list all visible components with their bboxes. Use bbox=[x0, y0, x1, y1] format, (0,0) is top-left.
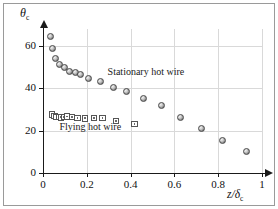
gridline-vertical bbox=[174, 29, 175, 173]
x-axis-tick-label: 0.8 bbox=[203, 178, 233, 190]
y-axis-label-subscript: c bbox=[26, 13, 29, 22]
x-axis-label: z/δc bbox=[227, 188, 243, 203]
figure-container: θc z/δc 00.20.40.60.810204060 Stationary… bbox=[0, 0, 278, 209]
x-axis-tick-label: 0 bbox=[28, 178, 58, 190]
gridline-vertical bbox=[262, 29, 263, 173]
x-axis-tick bbox=[218, 173, 219, 177]
y-axis-tick bbox=[39, 173, 43, 174]
gridline-vertical bbox=[218, 29, 219, 173]
x-axis-tick bbox=[131, 173, 132, 177]
x-axis-tick bbox=[174, 173, 175, 177]
gridline-horizontal bbox=[43, 46, 262, 47]
data-point-square bbox=[74, 115, 80, 121]
data-point-circle bbox=[97, 78, 104, 85]
x-axis-tick bbox=[43, 173, 44, 177]
x-axis-tick-label: 0.4 bbox=[116, 178, 146, 190]
x-axis-arrowhead bbox=[265, 169, 273, 177]
data-point-circle bbox=[140, 95, 147, 102]
gridline-vertical bbox=[131, 29, 132, 173]
y-axis-tick bbox=[39, 88, 43, 89]
y-axis-line bbox=[43, 26, 44, 173]
data-point-circle bbox=[47, 33, 54, 40]
series-annotation: Stationary hot wire bbox=[108, 66, 185, 77]
y-axis-tick-label: 20 bbox=[8, 124, 36, 136]
y-axis-tick bbox=[39, 46, 43, 47]
x-axis-label-subscript: c bbox=[240, 194, 243, 203]
y-axis-tick-label: 40 bbox=[8, 81, 36, 93]
data-point-circle bbox=[123, 88, 130, 95]
y-axis-tick-label: 0 bbox=[8, 166, 36, 178]
data-point-circle bbox=[243, 148, 250, 155]
data-point-square bbox=[99, 115, 105, 121]
data-point-circle bbox=[85, 75, 92, 82]
y-axis-arrowhead bbox=[40, 20, 48, 28]
data-point-square bbox=[131, 121, 137, 127]
x-axis-tick bbox=[262, 173, 263, 177]
data-point-circle bbox=[177, 114, 184, 121]
gridline-horizontal bbox=[43, 88, 262, 89]
series-annotation: Flying hot wire bbox=[59, 121, 121, 132]
data-point-circle bbox=[77, 71, 84, 78]
x-axis-line bbox=[43, 173, 266, 174]
data-point-circle bbox=[49, 45, 56, 52]
x-axis-tick-label: 0.2 bbox=[72, 178, 102, 190]
gridline-vertical bbox=[87, 29, 88, 173]
x-axis-tick-label: 1 bbox=[247, 178, 277, 190]
y-axis-tick bbox=[39, 131, 43, 132]
data-point-circle bbox=[110, 84, 117, 91]
data-point-circle bbox=[198, 125, 205, 132]
y-axis-label: θc bbox=[20, 6, 29, 22]
x-axis-tick-label: 0.6 bbox=[159, 178, 189, 190]
data-point-square bbox=[91, 115, 97, 121]
plot-area bbox=[43, 29, 262, 173]
data-point-circle bbox=[158, 102, 165, 109]
y-axis-tick-label: 60 bbox=[8, 39, 36, 51]
x-axis-tick bbox=[87, 173, 88, 177]
data-point-circle bbox=[219, 137, 226, 144]
